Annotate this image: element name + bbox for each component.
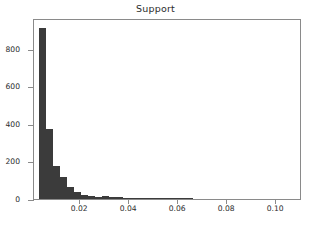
chart-figure: Support 0200400600800 0.020.040.060.080.…: [0, 0, 311, 229]
x-axis-tick-label: 0.04: [120, 205, 137, 213]
x-axis-tick-label: 0.08: [218, 205, 235, 213]
histogram-bar: [88, 196, 95, 199]
y-axis: 0200400600800: [0, 19, 28, 200]
x-axis: 0.020.040.060.080.10: [33, 200, 301, 224]
histogram-bar: [53, 166, 60, 199]
histogram-bar: [130, 198, 137, 199]
y-axis-tick: [28, 87, 34, 88]
y-axis-tick-label: 400: [6, 121, 21, 129]
plot-area: [33, 19, 301, 200]
chart-title: Support: [0, 3, 311, 14]
y-axis-tick: [28, 162, 34, 163]
x-axis-tick-label: 0.10: [267, 205, 284, 213]
y-axis-tick: [28, 125, 34, 126]
histogram-bar: [165, 198, 172, 199]
x-axis-tick-label: 0.02: [71, 205, 88, 213]
histogram-bar: [186, 198, 193, 199]
histogram-bar: [116, 197, 123, 199]
histogram-bar: [81, 195, 88, 199]
y-axis-tick-label: 800: [6, 46, 21, 54]
y-axis-tick: [28, 50, 34, 51]
histogram-bar: [39, 28, 46, 199]
y-axis-tick-label: 200: [6, 159, 21, 167]
histogram-bar: [102, 196, 109, 199]
histogram-bar: [179, 198, 186, 199]
x-axis-tick-label: 0.06: [169, 205, 186, 213]
y-axis-tick-label: 600: [6, 84, 21, 92]
y-axis-tick-label: 0: [15, 196, 20, 204]
histogram-bar: [151, 198, 158, 199]
histogram-bar: [67, 187, 74, 199]
histogram-bar: [144, 198, 151, 199]
histogram-bars: [34, 20, 300, 199]
